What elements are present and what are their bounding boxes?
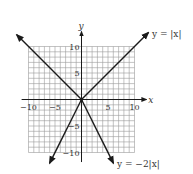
- y-tick-label: 5: [74, 69, 79, 78]
- graph: −10−5510105−5−10 x y y = |x| y = −2|x|: [0, 0, 193, 174]
- x-tick-label: −10: [20, 103, 37, 112]
- series: [17, 33, 148, 163]
- x-tick-label: −5: [49, 103, 61, 112]
- label-y-neg2-abs-x: y = −2|x|: [116, 159, 160, 170]
- y-tick-label: −10: [63, 149, 80, 158]
- x-tick-label: 5: [105, 103, 110, 112]
- x-axis-label: x: [148, 95, 153, 105]
- y-axis-label: y: [78, 21, 85, 31]
- x-tick-label: 10: [129, 103, 139, 112]
- vertex-point: [80, 98, 83, 101]
- series-0-ray-right: [82, 33, 149, 100]
- label-y-abs-x: y = |x|: [151, 29, 182, 40]
- y-tick-label: 10: [69, 43, 79, 52]
